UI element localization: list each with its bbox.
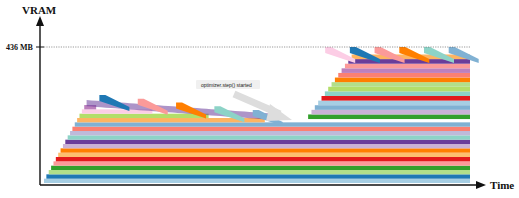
- memory-block: [315, 105, 470, 110]
- memory-block: [308, 114, 470, 119]
- memory-block: [65, 140, 470, 144]
- memory-block: [58, 153, 470, 157]
- memory-block: [44, 179, 470, 183]
- x-axis-arrow: [476, 181, 486, 189]
- memory-block: [322, 96, 470, 101]
- memory-block: [53, 161, 470, 165]
- memory-chart: VRAM Time 436 MB optimizer.step() starte…: [0, 0, 519, 198]
- memory-block: [332, 82, 470, 87]
- memory-block: [345, 64, 470, 69]
- memory-block: [338, 73, 470, 78]
- memory-block: [325, 91, 470, 96]
- memory-block: [61, 148, 470, 152]
- memory-block: [70, 131, 470, 135]
- memory-block: [318, 101, 470, 106]
- memory-block: [46, 174, 470, 178]
- memory-block: [342, 68, 470, 73]
- memory-block: [335, 78, 470, 83]
- annotation-text: optimizer.step() started: [201, 82, 252, 88]
- memory-block: [63, 144, 470, 148]
- memory-block: [68, 135, 470, 139]
- memory-block: [75, 122, 470, 126]
- y-axis-arrow: [36, 16, 44, 26]
- memory-block: [56, 157, 470, 161]
- memory-block: [51, 166, 470, 170]
- memory-block: [80, 114, 209, 118]
- memory-block: [49, 170, 470, 174]
- x-axis-label: Time: [490, 179, 514, 191]
- memory-block: [311, 110, 470, 115]
- y-tick-label: 436 MB: [6, 43, 34, 52]
- y-axis-label: VRAM: [22, 4, 57, 16]
- memory-block: [72, 127, 470, 131]
- memory-block: [328, 87, 470, 92]
